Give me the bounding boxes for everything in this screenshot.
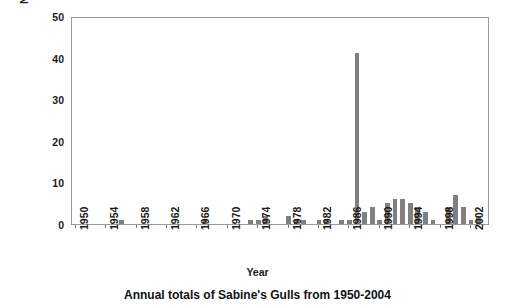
- x-tick-mark: [105, 225, 106, 228]
- x-tick-mark: [166, 225, 167, 228]
- x-tick-mark: [348, 225, 349, 228]
- x-tick-label: 1950: [79, 207, 90, 230]
- y-tick-label: 40: [28, 53, 64, 64]
- x-tick-mark: [379, 225, 380, 228]
- x-tick-mark: [318, 225, 319, 228]
- bar: [431, 220, 436, 224]
- x-tick-label: 1966: [200, 207, 211, 230]
- bar: [400, 199, 405, 224]
- x-tick-label: 1954: [109, 207, 120, 230]
- x-tick-label: 1970: [231, 207, 242, 230]
- x-tick-label: 1982: [322, 207, 333, 230]
- x-tick-label: 1998: [444, 207, 455, 230]
- bar: [355, 53, 360, 224]
- x-tick-mark: [440, 225, 441, 228]
- bar-series: [72, 18, 488, 224]
- x-tick-mark: [409, 225, 410, 228]
- x-tick-label: 1958: [140, 207, 151, 230]
- figure-caption: Annual totals of Sabine's Gulls from 195…: [0, 288, 515, 302]
- chart-figure: Number of individuals 01020304050 195019…: [0, 0, 515, 308]
- y-tick-label: 0: [28, 220, 64, 231]
- bar: [339, 220, 344, 224]
- x-tick-mark: [288, 225, 289, 228]
- x-axis-title: Year: [0, 266, 515, 278]
- y-tick-label: 10: [28, 178, 64, 189]
- x-tick-label: 1994: [413, 207, 424, 230]
- x-tick-label: 1962: [170, 207, 181, 230]
- x-tick-mark: [136, 225, 137, 228]
- bar: [248, 220, 253, 224]
- bar: [461, 207, 466, 224]
- plot-area: [71, 17, 489, 225]
- bar: [370, 207, 375, 224]
- y-tick-label: 20: [28, 137, 64, 148]
- x-tick-label: 1986: [352, 207, 363, 230]
- y-tick-label: 50: [28, 12, 64, 23]
- x-tick-mark: [75, 225, 76, 228]
- x-tick-label: 1990: [383, 207, 394, 230]
- y-tick-label: 30: [28, 95, 64, 106]
- y-axis-tick-labels: 01020304050: [28, 0, 64, 308]
- x-tick-label: 1978: [292, 207, 303, 230]
- x-tick-label: 2002: [474, 207, 485, 230]
- x-tick-mark: [257, 225, 258, 228]
- x-tick-mark: [227, 225, 228, 228]
- x-tick-mark: [470, 225, 471, 228]
- x-tick-mark: [196, 225, 197, 228]
- x-tick-label: 1974: [261, 207, 272, 230]
